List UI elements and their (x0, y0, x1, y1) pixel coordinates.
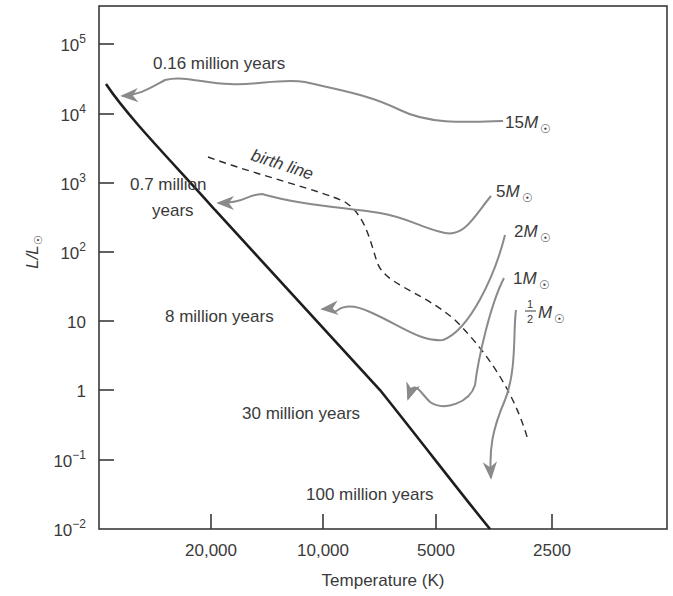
sun-symbol-icon: ☉ (554, 312, 565, 326)
svg-text:102: 102 (60, 240, 86, 263)
ytick-label: 10 (60, 106, 79, 125)
y-axis-ticks (99, 44, 114, 460)
svg-text:105: 105 (60, 32, 86, 55)
sun-symbol-icon: ☉ (32, 235, 44, 245)
hr-diagram: 105 104 103 102 10 1 10−1 10−2 20,000 10… (0, 0, 673, 596)
xtick-label: 5000 (417, 541, 455, 560)
x-tick-labels: 20,000 10,000 5000 2500 (185, 541, 571, 560)
mass-labels: 15M☉ 5M☉ 2M☉ 1M☉ 1 2 M☉ (496, 113, 565, 326)
svg-text:10−2: 10−2 (53, 517, 86, 540)
annotations: 0.16 million years 0.7 million years 8 m… (130, 54, 434, 504)
svg-text:103: 103 (60, 171, 86, 194)
plot-frame (99, 6, 667, 529)
xtick-label: 2500 (533, 541, 571, 560)
y-axis-title: L/L☉ (23, 235, 44, 269)
track-5-msun (218, 194, 491, 233)
svg-text:2: 2 (527, 313, 533, 325)
annotation-30-million-years: 30 million years (242, 404, 360, 423)
birth-line-label: birth line (249, 146, 316, 184)
sun-symbol-icon: ☉ (540, 231, 551, 245)
annotation-8-million-years: 8 million years (165, 307, 274, 326)
mass-label-5: 5M☉ (496, 182, 533, 205)
main-sequence-line (106, 84, 490, 529)
mass-label-15: 15M☉ (505, 113, 551, 136)
track-half-msun (490, 310, 516, 478)
track-2-msun (322, 235, 505, 340)
svg-text:10−1: 10−1 (53, 448, 86, 471)
annotation-0-7-million-years-line2: years (152, 201, 194, 220)
x-axis-ticks (211, 514, 552, 529)
xtick-label: 20,000 (185, 541, 237, 560)
mass-label-1: 1M☉ (513, 269, 550, 292)
sun-symbol-icon: ☉ (522, 191, 533, 205)
ytick-label: 10 (60, 244, 79, 263)
mass-label-half: 1 2 M☉ (525, 298, 565, 326)
sun-symbol-icon: ☉ (539, 278, 550, 292)
track-15-msun (122, 78, 503, 121)
sun-symbol-icon: ☉ (540, 122, 551, 136)
x-axis-title: Temperature (K) (322, 571, 445, 590)
mass-label-2: 2M☉ (514, 222, 551, 245)
track-1-msun (408, 278, 504, 406)
svg-text:1: 1 (527, 298, 533, 310)
ytick-label: 10 (53, 521, 72, 540)
ytick-label: 10 (53, 452, 72, 471)
ytick-label: 10 (67, 313, 86, 332)
ytick-label: 10 (60, 36, 79, 55)
annotation-100-million-years: 100 million years (306, 485, 434, 504)
xtick-label: 10,000 (297, 541, 349, 560)
annotation-0-16-million-years: 0.16 million years (153, 54, 285, 73)
ytick-label: 10 (60, 175, 79, 194)
svg-text:L/L☉: L/L☉ (23, 235, 44, 269)
svg-text:M☉: M☉ (538, 303, 565, 326)
ytick-label: 1 (77, 382, 86, 401)
y-tick-labels: 105 104 103 102 10 1 10−1 10−2 (53, 32, 86, 540)
annotation-0-7-million-years-line1: 0.7 million (130, 175, 207, 194)
svg-text:104: 104 (60, 102, 86, 125)
